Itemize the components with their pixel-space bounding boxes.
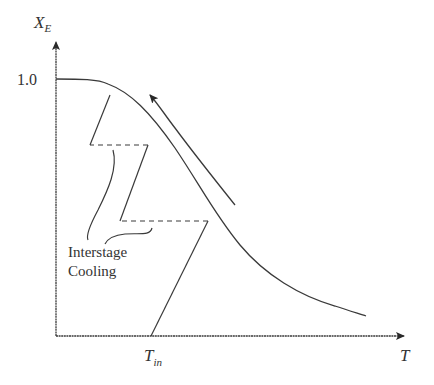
x-tick-label-tin: Tin [144,346,163,368]
stage-3-line [90,95,110,145]
y-tick-label-1: 1.0 [17,71,37,88]
annotation-leader-lower [105,228,152,244]
x-axis-label: T [400,346,411,365]
y-axis-label: XE [33,13,51,34]
diagram-canvas: XE 1.0 Interstage Cooling Tin T [0,0,434,385]
annotation-leader-upper [87,150,114,240]
annotation-line-2: Cooling [68,263,117,279]
stage-1-line [151,221,208,336]
direction-arrow [150,95,235,205]
stage-2-line [120,145,148,221]
annotation-line-1: Interstage [68,244,127,260]
